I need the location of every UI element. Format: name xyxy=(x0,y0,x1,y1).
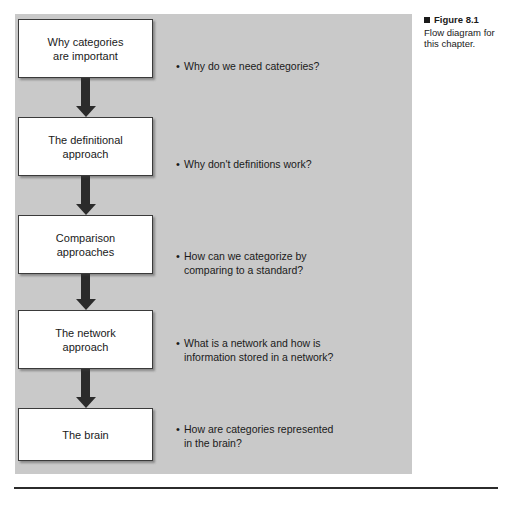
flowchart-column: Why categories are important The definit… xyxy=(18,19,153,461)
figure-caption-body: Flow diagram for this chapter. xyxy=(424,27,506,50)
flow-node-why-categories: Why categories are important xyxy=(18,19,153,78)
bullet-icon: • xyxy=(176,423,184,437)
arrow-down-icon-4 xyxy=(18,369,153,408)
flow-box[interactable]: The network approach xyxy=(18,310,153,369)
flow-box[interactable]: Comparison approaches xyxy=(18,215,153,274)
flow-box[interactable]: The brain xyxy=(18,408,153,461)
flow-box-label: The brain xyxy=(62,428,108,442)
arrow-down-icon-1 xyxy=(18,78,153,117)
flow-node-network-approach: The network approach xyxy=(18,310,153,369)
list-item-text: Why do we need categories? xyxy=(184,60,391,74)
figure-caption-number: Figure 8.1 xyxy=(434,14,479,25)
flow-box-label: Comparison approaches xyxy=(56,231,115,259)
list-item: • How are categories represented in the … xyxy=(176,423,391,450)
flow-box-label: The definitional approach xyxy=(48,133,123,161)
bullet-icon: • xyxy=(176,158,184,172)
bullet-icon: • xyxy=(176,60,184,74)
arrow-down-icon-2 xyxy=(18,176,153,215)
list-item-text: Why don't definitions work? xyxy=(184,158,391,172)
bullet-icon: • xyxy=(176,337,184,351)
black-square-marker-icon xyxy=(424,17,430,23)
bullet-icon: • xyxy=(176,250,184,264)
flow-node-definitional-approach: The definitional approach xyxy=(18,117,153,176)
flow-box[interactable]: Why categories are important xyxy=(18,19,153,78)
figure-caption: Figure 8.1 Flow diagram for this chapter… xyxy=(424,14,506,50)
list-item: • How can we categorize by comparing to … xyxy=(176,250,391,277)
list-item-text: What is a network and how is information… xyxy=(184,337,391,364)
flow-box-label: Why categories are important xyxy=(48,35,124,63)
list-item: • What is a network and how is informati… xyxy=(176,337,391,364)
list-item: • Why don't definitions work? xyxy=(176,158,391,172)
flow-box[interactable]: The definitional approach xyxy=(18,117,153,176)
list-item-text: How can we categorize by comparing to a … xyxy=(184,250,391,277)
page-divider-rule xyxy=(14,487,498,489)
flow-node-comparison-approaches: Comparison approaches xyxy=(18,215,153,274)
arrow-down-icon-3 xyxy=(18,274,153,310)
flow-node-the-brain: The brain xyxy=(18,408,153,461)
flow-box-label: The network approach xyxy=(55,326,116,354)
figure-caption-heading: Figure 8.1 xyxy=(424,14,506,26)
list-item-text: How are categories represented in the br… xyxy=(184,423,391,450)
list-item: • Why do we need categories? xyxy=(176,60,391,74)
